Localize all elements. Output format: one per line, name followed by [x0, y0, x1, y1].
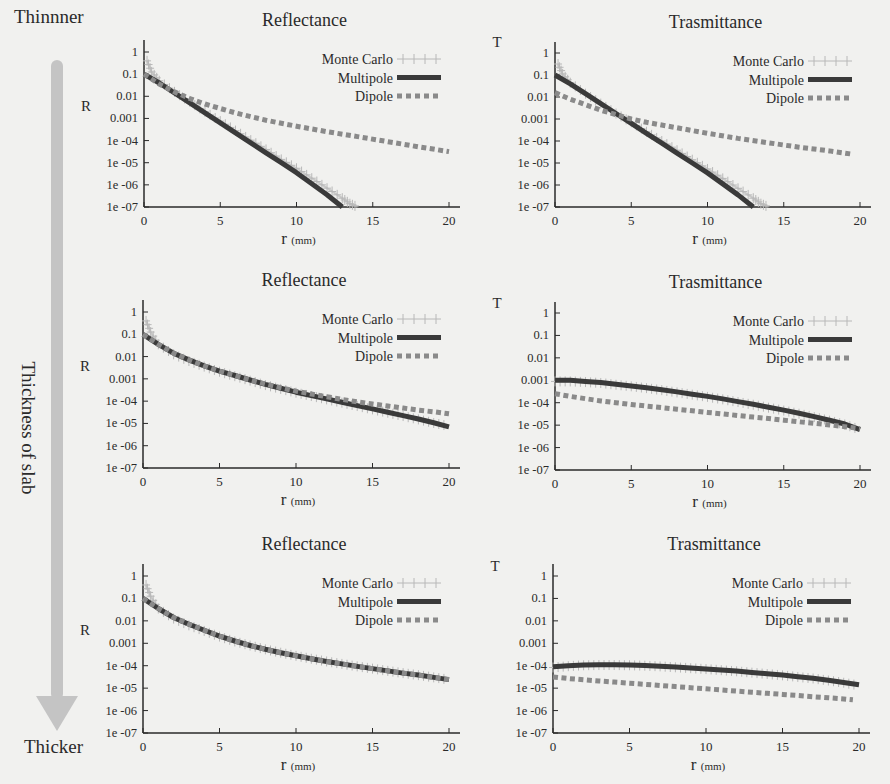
chart-mid-reflectance: Reflectance10.10.010.0011e -041e -051e -… [80, 270, 460, 509]
y-tick-label: 0.1 [122, 67, 138, 81]
y-tick-label: 0.1 [533, 328, 549, 342]
y-tick-label: 1e -04 [517, 134, 549, 148]
y-tick-label: 1e -04 [106, 134, 138, 148]
chart-title: Trasmittance [669, 12, 762, 32]
y-tick-label: 0.01 [115, 350, 137, 364]
y-tick-label: 1e -05 [106, 156, 138, 170]
legend-label: Multipole [749, 333, 804, 348]
legend-label: Multipole [338, 331, 393, 346]
y-tick-label: 0.1 [121, 591, 137, 605]
chart-mid-transmittance: Trasmittance10.10.010.0011e -041e -051e … [492, 272, 871, 511]
y-tick-label: 1e -07 [105, 461, 137, 475]
y-tick-label: 1e -04 [105, 659, 137, 673]
y-tick-label: 1e -07 [517, 200, 549, 214]
y-tick-label: 1 [131, 305, 137, 319]
series-multipole [143, 598, 449, 679]
legend-label: Monte Carlo [733, 54, 804, 69]
x-tick-label: 10 [290, 739, 303, 754]
x-tick-label: 5 [216, 739, 223, 754]
y-axis-label: T [490, 558, 499, 574]
figure: Thinnner Thickness of slab Thicker Refle… [0, 0, 890, 784]
legend: Monte CarloMultipoleDipole [322, 576, 441, 628]
y-tick-label: 1e -06 [517, 441, 549, 455]
legend-label: Monte Carlo [733, 314, 804, 329]
y-tick-label: 0.1 [121, 327, 137, 341]
legend-label: Dipole [355, 89, 393, 104]
x-tick-label: 10 [290, 474, 303, 489]
legend-label: Dipole [355, 349, 393, 364]
y-tick-label: 1e -05 [517, 418, 549, 432]
x-tick-label: 10 [701, 476, 714, 491]
y-tick-label: 1e -05 [105, 416, 137, 430]
y-axis-label: R [80, 622, 90, 638]
y-axis-label: R [81, 98, 91, 114]
y-tick-label: 0.01 [115, 614, 137, 628]
y-tick-label: 1e -06 [517, 178, 549, 192]
y-tick-label: 1 [541, 569, 547, 583]
x-tick-label: 20 [853, 739, 866, 754]
y-tick-label: 1e -04 [515, 659, 547, 673]
x-tick-label: 5 [628, 476, 635, 491]
y-tick-label: 0.001 [110, 111, 138, 125]
x-tick-label: 0 [552, 476, 559, 491]
y-tick-label: 1e -05 [515, 681, 547, 695]
x-tick-label: 0 [550, 739, 557, 754]
legend-label: Monte Carlo [322, 576, 393, 591]
x-tick-label: 10 [700, 739, 713, 754]
series-monte-carlo [142, 316, 449, 430]
chart-thin-reflectance: Reflectance10.10.010.0011e -041e -051e -… [81, 10, 460, 248]
x-tick-label: 15 [366, 474, 379, 489]
x-axis-label: r (mm) [281, 755, 316, 774]
legend-label: Dipole [765, 613, 803, 628]
y-tick-label: 0.001 [109, 372, 137, 386]
series-monte-carlo [551, 376, 860, 433]
y-tick-label: 1e -07 [105, 726, 137, 740]
chart-thick-transmittance: Trasmittance10.10.010.0011e -041e -051e … [490, 534, 870, 774]
x-tick-label: 15 [776, 739, 789, 754]
series-monte-carlo [554, 59, 770, 211]
legend-label: Monte Carlo [322, 52, 393, 67]
x-tick-label: 0 [140, 739, 147, 754]
x-tick-label: 0 [141, 213, 148, 228]
y-tick-label: 0.01 [525, 614, 547, 628]
y-tick-label: 1e -07 [106, 200, 138, 214]
chart-thick-reflectance: Reflectance10.10.010.0011e -041e -051e -… [80, 534, 460, 774]
legend-label: Dipole [355, 613, 393, 628]
x-axis-label: r (mm) [281, 229, 316, 248]
chart-thin-transmittance: Trasmittance10.10.010.0011e -041e -051e … [492, 12, 871, 248]
y-tick-label: 0.001 [521, 373, 549, 387]
x-axis-label: r (mm) [692, 492, 727, 511]
y-tick-label: 0.1 [531, 591, 547, 605]
y-tick-label: 1 [543, 306, 549, 320]
x-tick-label: 20 [854, 213, 867, 228]
x-tick-label: 5 [628, 213, 635, 228]
legend-label: Monte Carlo [322, 312, 393, 327]
charts-canvas: Reflectance10.10.010.0011e -041e -051e -… [0, 0, 890, 784]
y-tick-label: 0.01 [527, 351, 549, 365]
series-monte-carlo [143, 56, 359, 211]
x-tick-label: 0 [552, 213, 559, 228]
y-tick-label: 0.01 [527, 90, 549, 104]
x-tick-label: 20 [443, 213, 456, 228]
y-tick-label: 1e -06 [105, 704, 137, 718]
y-tick-label: 1e -06 [106, 178, 138, 192]
y-tick-label: 0.01 [116, 89, 138, 103]
x-axis-label: r (mm) [692, 229, 727, 248]
chart-title: Reflectance [262, 534, 347, 554]
legend: Monte CarloMultipoleDipole [733, 314, 852, 366]
x-tick-label: 15 [366, 213, 379, 228]
x-tick-label: 20 [443, 739, 456, 754]
series-multipole [555, 75, 753, 207]
y-tick-label: 1e -05 [517, 156, 549, 170]
x-tick-label: 0 [140, 474, 147, 489]
x-tick-label: 5 [217, 213, 224, 228]
y-tick-label: 1e -07 [517, 463, 549, 477]
x-tick-label: 10 [701, 213, 714, 228]
y-tick-label: 1 [543, 46, 549, 60]
y-axis-label: T [492, 34, 501, 50]
y-axis-label: T [492, 295, 501, 311]
y-tick-label: 1e -07 [515, 726, 547, 740]
series-dipole [144, 74, 449, 152]
y-axis-label: R [80, 358, 90, 374]
legend: Monte CarloMultipoleDipole [322, 312, 441, 364]
